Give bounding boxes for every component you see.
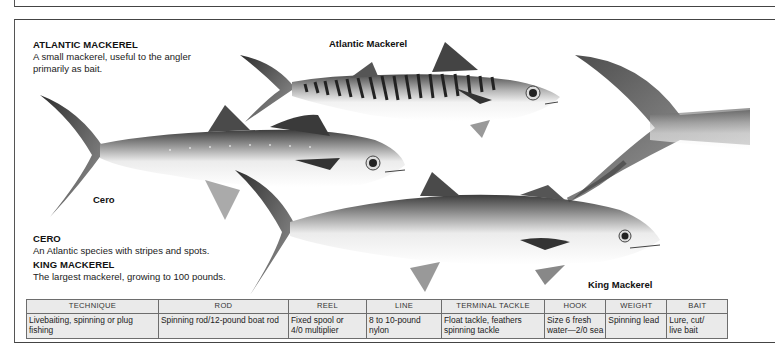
header-bait: BAIT <box>667 300 728 314</box>
cell-bait: Lure, cut/ live bait <box>667 313 728 338</box>
tackle-table: TECHNIQUE ROD REEL LINE TERMINAL TACKLE … <box>26 299 728 339</box>
cell-terminal-tackle: Float tackle, feathers spinning tackle <box>442 313 545 338</box>
header-rod: ROD <box>159 300 289 314</box>
king-mackerel-caption: KING MACKEREL The largest mackerel, grow… <box>33 259 226 283</box>
cero-heading: CERO <box>33 233 209 245</box>
partial-fish-tail-right <box>572 55 750 200</box>
cero-caption: CERO An Atlantic species with stripes an… <box>33 233 209 257</box>
cell-reel-line2: 4/0 multiplier <box>291 325 364 336</box>
header-hook: HOOK <box>545 300 606 314</box>
cell-technique: Livebaiting, spinning or plug fishing <box>27 313 159 338</box>
atlantic-mackerel-label: Atlantic Mackerel <box>329 38 407 49</box>
king-mackerel-desc: The largest mackerel, growing to 100 pou… <box>33 271 226 283</box>
cell-bait-line1: Lure, cut/ <box>669 315 725 326</box>
cero-label: Cero <box>93 194 115 205</box>
tackle-table-row: Livebaiting, spinning or plug fishing Sp… <box>27 313 728 338</box>
header-technique: TECHNIQUE <box>27 300 159 314</box>
cell-bait-line2: live bait <box>669 325 725 336</box>
king-mackerel-heading: KING MACKEREL <box>33 259 226 271</box>
cell-rod: Spinning rod/12-pound boat rod <box>159 313 289 338</box>
cell-reel: Fixed spool or 4/0 multiplier <box>289 313 367 338</box>
cell-hook: Size 6 fresh water—2/0 sea <box>545 313 606 338</box>
header-reel: REEL <box>289 300 367 314</box>
atlantic-mackerel-heading: ATLANTIC MACKEREL <box>33 39 191 51</box>
cell-hook-line2: water—2/0 sea <box>547 325 603 336</box>
atlantic-mackerel-desc-line2: primarily as bait. <box>33 63 191 75</box>
cell-line-line1: 8 to 10-pound <box>369 315 439 326</box>
king-mackerel-label: King Mackerel <box>588 279 652 290</box>
header-line: LINE <box>367 300 442 314</box>
cell-terminal-line2: spinning tackle <box>444 325 542 336</box>
cell-technique-line2: fishing <box>29 325 156 336</box>
atlantic-mackerel-desc-line1: A small mackerel, useful to the angler <box>33 51 191 63</box>
tackle-table-header-row: TECHNIQUE ROD REEL LINE TERMINAL TACKLE … <box>27 300 728 314</box>
cero-desc: An Atlantic species with stripes and spo… <box>33 245 209 257</box>
cell-weight: Spinning lead <box>606 313 667 338</box>
cell-terminal-line1: Float tackle, feathers <box>444 315 542 326</box>
cell-line-line2: nylon <box>369 325 439 336</box>
atlantic-mackerel-caption: ATLANTIC MACKEREL A small mackerel, usef… <box>33 39 191 75</box>
header-terminal-tackle: TERMINAL TACKLE <box>442 300 545 314</box>
cell-line: 8 to 10-pound nylon <box>367 313 442 338</box>
cell-technique-line1: Livebaiting, spinning or plug <box>29 315 156 326</box>
header-weight: WEIGHT <box>606 300 667 314</box>
cell-hook-line1: Size 6 fresh <box>547 315 603 326</box>
cell-reel-line1: Fixed spool or <box>291 315 364 326</box>
